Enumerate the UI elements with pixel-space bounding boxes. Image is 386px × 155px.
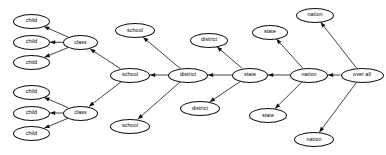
node-state_top[interactable]: state <box>252 25 288 40</box>
arrowhead-icon <box>50 111 55 115</box>
arrowhead-icon <box>90 49 95 54</box>
diagram-canvas: childchildchildchildchildchildclassclass… <box>0 0 386 155</box>
node-label: school <box>122 123 138 128</box>
node-label: child <box>26 18 37 23</box>
node-child5[interactable]: child <box>13 106 50 121</box>
node-state_mid[interactable]: state <box>232 68 268 83</box>
node-label: school <box>127 28 143 33</box>
node-label: child <box>26 89 37 94</box>
edge-overall-to-nation_top <box>321 22 357 68</box>
edge-state_mid-to-district_mid <box>208 73 232 77</box>
edge-district_mid-to-school_bot <box>138 82 180 119</box>
edge-overall-to-nation_mid <box>328 73 341 77</box>
arrowhead-icon <box>268 73 273 77</box>
node-label: state <box>262 113 274 118</box>
node-child2[interactable]: child <box>13 35 50 50</box>
arrowhead-icon <box>50 40 55 44</box>
arrowhead-icon <box>44 27 50 31</box>
edge-school_mid-to-class1 <box>90 49 120 69</box>
node-label: district <box>192 106 208 111</box>
node-label: nation <box>302 72 317 77</box>
node-class2[interactable]: class <box>63 106 98 121</box>
edge-overall-to-nation_bot <box>319 82 356 132</box>
edge-district_mid-to-school_top <box>143 37 180 68</box>
edge-nation_mid-to-state_top <box>276 39 302 68</box>
node-label: state <box>244 72 256 77</box>
edge-state_mid-to-district_top <box>217 47 242 68</box>
edge-class2-to-child6 <box>44 118 68 128</box>
node-school_bot[interactable]: school <box>110 119 150 134</box>
edge-class1-to-child3 <box>45 48 68 58</box>
node-label: school <box>122 72 138 77</box>
arrowhead-icon <box>321 22 326 27</box>
node-label: child <box>26 39 37 44</box>
node-nation_mid[interactable]: nation <box>290 68 328 83</box>
node-label: child <box>26 60 37 65</box>
edge-state_mid-to-district_bot <box>210 81 241 102</box>
node-district_bot[interactable]: district <box>180 101 220 116</box>
edge-class2-to-child5 <box>50 111 63 115</box>
node-label: child <box>26 131 37 136</box>
node-label: class <box>74 110 87 115</box>
arrowhead-icon <box>208 73 213 77</box>
edge-class2-to-child4 <box>44 97 68 107</box>
node-child4[interactable]: child <box>13 85 50 100</box>
edge-class1-to-child2 <box>50 40 63 44</box>
node-child1[interactable]: child <box>13 14 50 29</box>
node-school_top[interactable]: school <box>115 23 155 38</box>
arrowhead-icon <box>328 73 333 77</box>
arrowhead-icon <box>150 73 155 77</box>
node-nation_bot[interactable]: nation <box>294 132 334 147</box>
node-label: child <box>26 110 37 115</box>
node-label: district <box>201 37 217 42</box>
node-state_bot[interactable]: state <box>249 108 287 123</box>
edge-school_mid-to-class2 <box>89 82 121 107</box>
edge-nation_mid-to-state_bot <box>275 82 302 109</box>
node-child6[interactable]: child <box>13 126 50 141</box>
edge-nation_mid-to-state_mid <box>268 73 290 77</box>
node-label: class <box>74 40 87 45</box>
node-label: over all <box>353 72 371 77</box>
node-label: district <box>180 72 196 77</box>
node-label: state <box>264 29 276 34</box>
node-child3[interactable]: child <box>13 55 50 70</box>
node-label: nation <box>307 137 322 142</box>
arrowhead-icon <box>44 97 50 101</box>
node-district_mid[interactable]: district <box>168 68 208 83</box>
node-nation_top[interactable]: nation <box>296 8 334 23</box>
node-school_mid[interactable]: school <box>110 68 150 83</box>
node-label: nation <box>308 12 323 17</box>
node-class1[interactable]: class <box>63 35 98 50</box>
node-district_top[interactable]: district <box>190 33 228 48</box>
node-overall[interactable]: over all <box>341 68 384 83</box>
arrowhead-icon <box>89 102 94 107</box>
edge-class1-to-child1 <box>44 27 68 38</box>
edge-district_mid-to-school_mid <box>150 73 168 77</box>
